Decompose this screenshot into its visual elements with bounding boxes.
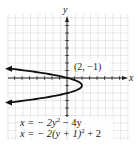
equation-vertex-form: x = − 2(y + 1)2 + 2 [19,127,101,140]
vertex-label: (2, −1) [74,61,101,73]
equation-standard: x = − 2y2 − 4y [19,116,83,128]
y-axis-label: y [62,4,68,15]
x-axis-label: x [128,72,134,83]
parabola-chart: y x (2, −1) x = − 2y2 − 4y x = − 2(y + 1… [0,0,138,149]
x-axis-arrow-icon [122,76,128,80]
y-axis-arrow-icon [65,16,69,22]
